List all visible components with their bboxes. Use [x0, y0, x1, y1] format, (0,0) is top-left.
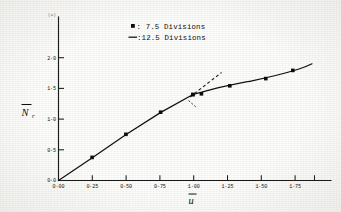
figure-canvas: (a) 0·0 0·5 1·0 1·5 2·0 [0, 0, 341, 212]
legend-marker-square-icon [131, 24, 135, 28]
y-title-text: N [21, 107, 30, 118]
data-point [200, 92, 204, 96]
y-axis-title: N r [21, 105, 36, 120]
x-ticklabel-3: 0·75 [154, 184, 166, 190]
x-ticklabel-4: 1·00 [188, 184, 200, 190]
x-ticklabel-0: 0·00 [53, 184, 65, 190]
x-ticklabel-1: 0·25 [86, 184, 98, 190]
y-ticklabel-1: 0·5 [47, 148, 56, 154]
data-point [264, 77, 268, 81]
corner-mark: (a) [48, 13, 56, 17]
data-point [159, 110, 163, 114]
x-ticklabels: 0·00 0·25 0·50 0·75 1·00 1·25 1·50 1·75 [53, 184, 301, 190]
data-point [291, 69, 295, 73]
x-ticklabel-5: 1·25 [222, 184, 234, 190]
y-ticks [59, 58, 65, 181]
x-ticklabel-2: 0·50 [120, 184, 132, 190]
data-point [228, 84, 232, 88]
data-markers-7-5-divisions [90, 69, 294, 160]
x-ticklabel-7: 1·75 [289, 184, 301, 190]
x-ticklabel-6: 1·50 [255, 184, 267, 190]
tangent-small-mark [189, 101, 197, 108]
data-point [124, 133, 128, 137]
legend: : 7.5 Divisions :12.5 Divisions [129, 23, 206, 42]
data-curve-12-5-divisions [59, 64, 313, 181]
y-ticklabels: 0·0 0·5 1·0 1·5 2·0 [47, 56, 56, 185]
chart-svg: (a) 0·0 0·5 1·0 1·5 2·0 [0, 0, 341, 212]
data-point [90, 156, 94, 160]
legend-label-1: :12.5 Divisions [137, 34, 206, 42]
x-axis-title: u [189, 194, 197, 206]
y-ticklabel-2: 1·0 [47, 117, 56, 123]
data-point [191, 93, 195, 97]
x-title-text: u [189, 195, 194, 206]
y-title-subscript: r [32, 112, 35, 119]
y-ticklabel-4: 2·0 [47, 56, 56, 62]
legend-label-0: : 7.5 Divisions [137, 23, 206, 31]
y-ticklabel-3: 1·5 [47, 86, 56, 92]
x-ticks [59, 175, 315, 180]
